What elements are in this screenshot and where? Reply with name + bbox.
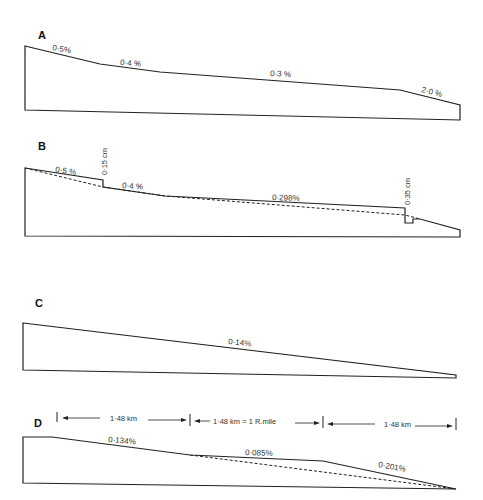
slope-label-c-1: 0·14% [228,337,252,348]
longitudinal-profile-diagram: A 0·5% 0·4 % 0·3 % 2·0 % B 0·5 % 0·4 % 0… [0,0,483,500]
profile-outline-c [23,323,456,378]
profile-outline-a [25,46,460,120]
panel-d: D 1·48 km 1·48 km = 1 R.mile 1·48 km 0·1… [23,412,456,489]
slope-label-b-1: 0·5 % [55,165,77,177]
slope-label-b-2: 0·4 % [122,181,143,191]
slope-label-d-3: 0·201% [378,460,407,474]
slope-label-a-3: 0·3 % [270,69,291,79]
original-profile-dashed-b [25,168,420,219]
distance-label-d-1: 1·48 km [110,414,137,423]
panel-label-d: D [34,417,42,429]
panel-c: C 0·14% [23,297,456,378]
original-profile-dashed-d [190,455,456,489]
panel-b: B 0·5 % 0·4 % 0·298% 0·15 cm 0·35 cm [25,140,460,237]
panel-label-c: C [35,297,43,309]
step-label-b-2: 0·35 cm [403,178,412,205]
panel-label-a: A [38,29,46,41]
distance-label-d-2: 1·48 km = 1 R.mile [213,417,276,426]
slope-label-a-4: 2·0 % [421,85,443,99]
slope-label-d-2: 0·085% [245,448,273,458]
slope-label-b-3: 0·298% [272,193,300,203]
step-label-b-1: 0·15 cm [100,148,109,175]
panel-label-b: B [38,140,46,152]
panel-a: A 0·5% 0·4 % 0·3 % 2·0 % [25,29,460,120]
slope-label-a-2: 0·4 % [120,58,141,68]
distance-label-d-3: 1·48 km [384,420,411,429]
